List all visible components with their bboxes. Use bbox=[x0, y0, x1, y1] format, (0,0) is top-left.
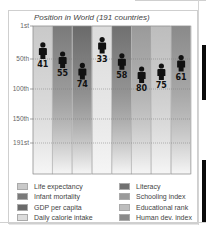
legend-swatch bbox=[119, 204, 130, 211]
y-tick-label: 191st bbox=[13, 139, 29, 146]
legend-item: Life expectancy bbox=[17, 181, 93, 192]
legend-label: Daily calorie intake bbox=[34, 214, 93, 221]
data-label: 41 bbox=[37, 60, 49, 69]
column-infant-mortality bbox=[53, 26, 72, 174]
column-educational-rank bbox=[152, 26, 171, 174]
column-literacy bbox=[112, 26, 131, 174]
legend-swatch bbox=[17, 214, 28, 221]
data-label: 33 bbox=[97, 55, 108, 64]
legend-label: Literacy bbox=[136, 183, 161, 190]
column-schooling-index bbox=[132, 26, 151, 174]
legend-label: Educational rank bbox=[136, 204, 188, 211]
legend-item: Educational rank bbox=[119, 202, 192, 213]
y-tick-label: 50th bbox=[16, 55, 29, 62]
data-label: 74 bbox=[77, 80, 89, 89]
data-label: 55 bbox=[57, 69, 69, 78]
legend-left: Life expectancyInfant mortalityGDP per c… bbox=[17, 181, 93, 223]
data-label: 58 bbox=[116, 71, 128, 80]
legend-right: LiteracySchooling indexEducational rankH… bbox=[119, 181, 192, 223]
legend-swatch bbox=[17, 204, 28, 211]
data-label: 75 bbox=[156, 81, 168, 90]
legend-item: GDP per capita bbox=[17, 202, 93, 213]
y-axis-ticks: 1st50th100th150th191st bbox=[13, 22, 33, 146]
legend-item: Daily calorie intake bbox=[17, 213, 93, 224]
legend-label: Schooling index bbox=[136, 193, 185, 200]
legend-item: Schooling index bbox=[119, 192, 192, 203]
data-label: 61 bbox=[176, 73, 188, 82]
legend-item: Human dev. index bbox=[119, 213, 192, 224]
legend-swatch bbox=[17, 183, 28, 190]
y-tick-label: 150th bbox=[13, 115, 30, 122]
legend-item: Infant mortality bbox=[17, 192, 93, 203]
legend-swatch bbox=[119, 193, 130, 200]
column-gdp-per-capita bbox=[73, 26, 92, 174]
legend-swatch bbox=[119, 183, 130, 190]
columns bbox=[33, 26, 191, 174]
legend-swatch bbox=[119, 214, 130, 221]
y-tick-label: 1st bbox=[20, 22, 29, 29]
legend-swatch bbox=[17, 193, 28, 200]
legend-label: GDP per capita bbox=[34, 204, 82, 211]
column-human-dev-index bbox=[171, 26, 190, 174]
legend-item: Literacy bbox=[119, 181, 192, 192]
legend-label: Life expectancy bbox=[34, 183, 83, 190]
legend-label: Infant mortality bbox=[34, 193, 80, 200]
chart-title: Position in World (191 countries) bbox=[34, 13, 150, 22]
y-tick-label: 100th bbox=[13, 85, 30, 92]
legend-label: Human dev. index bbox=[136, 214, 192, 221]
data-label: 80 bbox=[136, 84, 148, 93]
